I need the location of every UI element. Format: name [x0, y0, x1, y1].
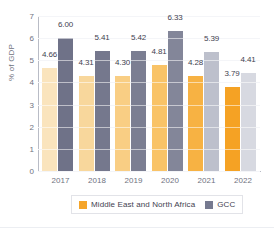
bar-mena-2017[interactable]: 4.66	[42, 68, 57, 171]
bar-gridline	[79, 127, 94, 128]
bar-gridline	[42, 127, 57, 128]
bar-gcc-2019[interactable]: 5.42	[131, 51, 146, 171]
bottom-divider	[0, 227, 274, 228]
bar-gridline	[79, 82, 94, 83]
bar-gridline	[58, 82, 73, 83]
bar-value-label: 6.00	[58, 20, 73, 29]
y-axis-tick-label: 1	[29, 144, 34, 153]
bar-gridline	[241, 105, 256, 106]
bar-value-label: 4.41	[240, 55, 255, 64]
y-axis-tick-label: 2	[29, 122, 34, 131]
bar-gridline	[115, 149, 130, 150]
bar-group: 4.315.41	[79, 16, 116, 171]
y-axis-tick-label: 4	[29, 78, 34, 87]
bar-value-label: 5.41	[94, 33, 109, 42]
legend-item-mena[interactable]: Middle East and North Africa	[79, 200, 195, 209]
bar-value-label: 4.66	[42, 50, 57, 59]
legend-label-gcc: GCC	[217, 200, 235, 209]
x-axis-tick-label: 2017	[41, 176, 81, 185]
bar-gridline	[95, 149, 110, 150]
bar-gridline	[241, 82, 256, 83]
bar-gridline	[152, 82, 167, 83]
bar-gridline	[42, 82, 57, 83]
bar-group: 4.305.42	[115, 16, 152, 171]
bar-gridline	[168, 127, 183, 128]
gridline	[38, 171, 260, 172]
bar-value-label: 6.33	[167, 13, 182, 22]
y-axis-title: % of GDP	[7, 28, 16, 98]
bar-value-label: 4.28	[188, 58, 203, 67]
bar-gridline	[58, 127, 73, 128]
bar-gridline	[58, 38, 73, 39]
x-axis-tick-label: 2019	[114, 176, 154, 185]
bar-gcc-2020[interactable]: 6.33	[168, 31, 183, 171]
bar-gridline	[152, 127, 167, 128]
bar-gridline	[42, 149, 57, 150]
bar-gridline	[95, 82, 110, 83]
bar-gridline	[58, 105, 73, 106]
bar-gridline	[241, 149, 256, 150]
bar-mena-2021[interactable]: 4.28	[188, 76, 203, 171]
bar-gridline	[58, 60, 73, 61]
y-axis-tick-label: 5	[29, 56, 34, 65]
bar-gcc-2018[interactable]: 5.41	[95, 51, 110, 171]
bar-gridline	[95, 127, 110, 128]
bar-gridline	[152, 105, 167, 106]
bar-value-label: 5.42	[131, 33, 146, 42]
legend-item-gcc[interactable]: GCC	[205, 200, 235, 209]
bar-gridline	[188, 149, 203, 150]
y-axis-tick-label: 6	[29, 34, 34, 43]
bar-gridline	[115, 105, 130, 106]
bar-mena-2022[interactable]: 3.79	[225, 87, 240, 171]
bar-value-label: 4.81	[151, 47, 166, 56]
bar-gcc-2021[interactable]: 5.39	[204, 52, 219, 171]
bar-gridline	[115, 82, 130, 83]
bar-gcc-2017[interactable]: 6.00	[58, 38, 73, 171]
bar-group: 4.285.39	[188, 16, 225, 171]
bar-gridline	[168, 105, 183, 106]
bar-gridline	[79, 105, 94, 106]
bar-gridline	[225, 149, 240, 150]
x-axis-tick-label: 2018	[77, 176, 117, 185]
y-axis-tick-label: 3	[29, 100, 34, 109]
bar-gridline	[168, 82, 183, 83]
x-axis-tick-label: 2022	[223, 176, 263, 185]
bar-gridline	[131, 127, 146, 128]
bar-gridline	[241, 127, 256, 128]
bar-mena-2019[interactable]: 4.30	[115, 76, 130, 171]
bar-value-label: 3.79	[224, 69, 239, 78]
bar-gridline	[168, 38, 183, 39]
plot-area: 012345674.666.004.315.414.305.424.816.33…	[38, 16, 260, 171]
bar-gridline	[58, 149, 73, 150]
bar-gcc-2022[interactable]: 4.41	[241, 73, 256, 171]
bar-value-label: 5.39	[204, 34, 219, 43]
bar-gridline	[204, 105, 219, 106]
bar-gridline	[152, 149, 167, 150]
bar-mena-2020[interactable]: 4.81	[152, 65, 167, 172]
bar-gridline	[79, 149, 94, 150]
bar-mena-2018[interactable]: 4.31	[79, 76, 94, 171]
bar-gridline	[188, 105, 203, 106]
bar-gridline	[188, 127, 203, 128]
bar-gridline	[225, 127, 240, 128]
legend-label-mena: Middle East and North Africa	[91, 200, 195, 209]
bar-gridline	[188, 82, 203, 83]
legend-swatch-gcc	[205, 201, 213, 209]
bar-gridline	[225, 105, 240, 106]
bar-gridline	[204, 60, 219, 61]
bar-gridline	[131, 149, 146, 150]
bar-gridline	[131, 105, 146, 106]
bar-gridline	[131, 60, 146, 61]
legend-swatch-mena	[79, 201, 87, 209]
y-axis-tick-label: 7	[29, 12, 34, 21]
bar-chart: % of GDP 012345674.666.004.315.414.305.4…	[0, 0, 274, 234]
bar-value-label: 4.31	[78, 58, 93, 67]
x-axis-tick-label: 2020	[150, 176, 190, 185]
bar-gridline	[115, 127, 130, 128]
bar-group: 4.666.00	[42, 16, 79, 171]
bar-gridline	[95, 105, 110, 106]
bar-gridline	[131, 82, 146, 83]
bar-gridline	[204, 82, 219, 83]
bar-gridline	[42, 105, 57, 106]
y-axis-tick-label: 0	[29, 167, 34, 176]
